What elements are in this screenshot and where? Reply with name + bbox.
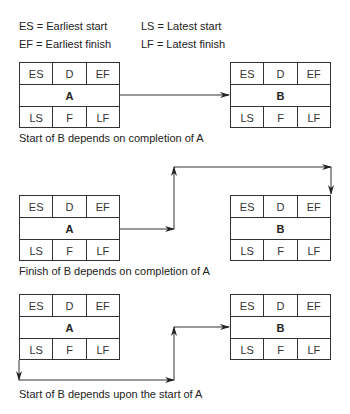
dependency-arrows bbox=[0, 0, 350, 414]
